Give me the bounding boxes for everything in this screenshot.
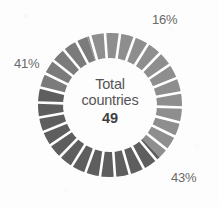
center-line-1: Total — [63, 76, 157, 92]
slice-label-top-right: 16% — [152, 12, 177, 27]
center-line-2: countries — [63, 92, 157, 108]
donut-center-label: Total countries 49 — [63, 76, 157, 127]
donut-chart-figure: 16% 41% 43% Total countries 49 — [0, 0, 219, 207]
divider-spoke — [37, 102, 64, 103]
slice-label-bottom-right: 43% — [171, 170, 196, 185]
center-total-value: 49 — [63, 110, 157, 126]
divider-spoke — [156, 107, 183, 108]
slice-label-left: 41% — [14, 56, 39, 71]
